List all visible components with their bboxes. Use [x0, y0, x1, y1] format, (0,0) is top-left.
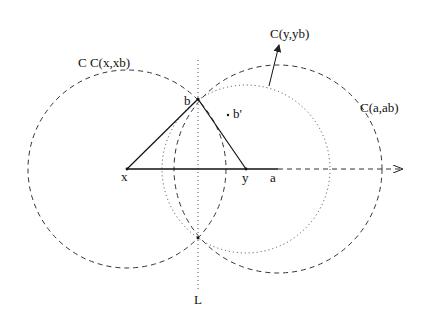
label-line-L: L	[194, 292, 202, 307]
segment-x-b	[127, 99, 198, 169]
label-point-b-prime: b'	[233, 106, 242, 121]
label-point-x: x	[121, 169, 128, 184]
label-point-a: a	[270, 170, 276, 185]
label-circle-a: C(a,ab)	[360, 100, 399, 115]
geometry-diagram: C C(x,xb) C(y,yb) C(a,ab) b b' x y a L	[0, 0, 437, 331]
label-circle-x: C C(x,xb)	[78, 55, 130, 70]
point-b-dot	[196, 97, 199, 100]
label-point-b: b	[184, 93, 191, 108]
label-point-y: y	[242, 170, 249, 185]
point-b-prime-dot	[227, 114, 229, 116]
point-lower-intersection	[197, 237, 200, 240]
label-circle-y: C(y,yb)	[270, 26, 309, 41]
